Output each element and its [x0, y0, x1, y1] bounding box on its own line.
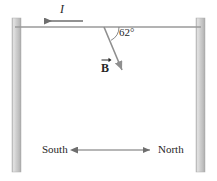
angle-label: 62° [119, 27, 134, 38]
north-label: North [158, 144, 184, 155]
vector-arrow-icon [101, 57, 112, 62]
b-field-letter: B [101, 61, 109, 75]
angle-arc-visible [111, 27, 119, 40]
south-label: South [42, 144, 68, 155]
b-field-label: B [101, 62, 109, 74]
left-post [12, 18, 21, 172]
physics-diagram-magnetic-field: I 62° B South North [0, 0, 217, 181]
current-label: I [60, 3, 64, 15]
diagram-canvas [0, 0, 217, 181]
right-post [196, 18, 205, 172]
